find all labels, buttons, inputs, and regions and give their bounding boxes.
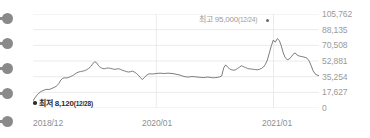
stock-chart-widget: 최고 95,000(12/24) 최저 8,120(12/28) 017,627… — [0, 0, 370, 138]
edge-dot-1[interactable] — [0, 13, 16, 24]
y-axis-tick-label: 35,254 — [322, 73, 347, 82]
edge-dot-4[interactable] — [0, 88, 16, 99]
high-price-marker-dot — [266, 19, 269, 22]
y-axis-tick-label: 105,762 — [322, 10, 352, 19]
x-axis-tick-label: 2021/01 — [262, 119, 292, 128]
high-price-date: (12/24) — [238, 16, 257, 23]
edge-marker-list — [0, 0, 22, 138]
price-line-chart — [33, 14, 319, 108]
edge-dot-stem — [0, 92, 8, 95]
price-line — [33, 39, 319, 101]
edge-dot-knob — [2, 13, 13, 24]
y-axis-tick-label: 88,135 — [322, 26, 347, 35]
x-axis-labels: 2018/122020/012021/01 — [0, 119, 370, 135]
edge-dot-knob — [2, 63, 13, 74]
gridlines — [33, 14, 319, 108]
low-price-date: (12/28) — [74, 100, 93, 107]
y-axis-labels: 017,62735,25452,88170,50888,135105,762 — [322, 0, 370, 138]
low-price-value: 8,120 — [55, 99, 74, 108]
chart-plot-area — [33, 14, 319, 108]
high-price-value: 95,000 — [215, 15, 238, 24]
low-price-annotation: 최저 8,120(12/28) — [39, 100, 93, 108]
edge-dot-2[interactable] — [0, 38, 16, 49]
edge-dot-stem — [0, 42, 8, 45]
edge-dot-3[interactable] — [0, 63, 16, 74]
edge-dot-stem — [0, 67, 8, 70]
low-price-label: 최저 — [39, 99, 53, 108]
y-axis-tick-label: 17,627 — [322, 88, 347, 97]
edge-dot-knob — [2, 38, 13, 49]
edge-dot-stem — [0, 17, 8, 20]
y-axis-tick-label: 0 — [322, 104, 327, 113]
x-axis-tick-label: 2018/12 — [33, 119, 63, 128]
low-price-marker-dot — [33, 101, 37, 105]
edge-dot-knob — [2, 88, 13, 99]
y-axis-tick-label: 70,508 — [322, 41, 347, 50]
high-price-label: 최고 — [199, 15, 213, 24]
high-price-annotation: 최고 95,000(12/24) — [199, 16, 257, 24]
y-axis-tick-label: 52,881 — [322, 57, 347, 66]
x-axis-tick-label: 2020/01 — [142, 119, 172, 128]
